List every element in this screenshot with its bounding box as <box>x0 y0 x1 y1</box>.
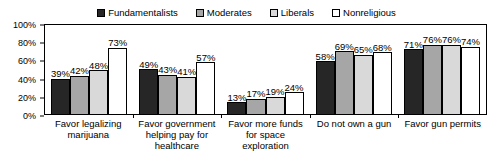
y-tick-label: 0% <box>23 112 36 121</box>
y-tick-label: 20% <box>18 93 36 102</box>
bar-slot: 68% <box>373 25 392 114</box>
bar-value-label: 39% <box>51 69 70 79</box>
bar-slot: 17% <box>246 25 265 114</box>
bar-slot: 48% <box>89 25 108 114</box>
legend-label: Moderates <box>207 8 252 18</box>
legend-item[interactable]: Liberals <box>270 8 314 18</box>
legend-swatch-icon <box>196 9 204 17</box>
plot-area: 39%42%48%73%49%43%41%57%13%17%19%24%58%6… <box>44 24 487 115</box>
legend-label: Liberals <box>281 8 314 18</box>
bar[interactable]: 41% <box>177 77 196 114</box>
bar-value-label: 42% <box>70 66 89 76</box>
bar-value-label: 65% <box>354 45 373 55</box>
bar-group: 13%17%19%24% <box>221 25 309 114</box>
x-axis-label: Favor more funds for space exploration <box>221 118 310 162</box>
bar[interactable]: 68% <box>373 52 392 114</box>
bar-group: 58%69%65%68% <box>310 25 398 114</box>
bar[interactable]: 74% <box>461 47 480 114</box>
bar-slot: 41% <box>177 25 196 114</box>
bar-value-label: 69% <box>335 42 354 52</box>
bar-value-label: 58% <box>316 52 335 62</box>
bar[interactable]: 19% <box>266 97 285 114</box>
bar[interactable]: 57% <box>196 62 215 114</box>
bar[interactable]: 43% <box>158 75 177 114</box>
legend-swatch-icon <box>270 9 278 17</box>
bar[interactable]: 65% <box>354 55 373 114</box>
bar[interactable]: 24% <box>285 92 304 114</box>
bar-slot: 13% <box>227 25 246 114</box>
bar-value-label: 74% <box>461 37 480 47</box>
legend-swatch-icon <box>332 9 340 17</box>
x-axis-label: Do not own a gun <box>310 118 399 162</box>
bar-slot: 65% <box>354 25 373 114</box>
y-tick-label: 100% <box>13 21 36 30</box>
x-axis-label: Favor government helping pay for healthc… <box>133 118 222 162</box>
chart-legend: FundamentalistsModeratesLiberalsNonrelig… <box>0 5 493 21</box>
bar-group: 39%42%48%73% <box>45 25 133 114</box>
bar-value-label: 49% <box>139 60 158 70</box>
x-axis-labels: Favor legalizing marijuanaFavor governme… <box>44 118 487 162</box>
bar[interactable]: 71% <box>404 49 423 114</box>
bar[interactable]: 76% <box>442 45 461 114</box>
bar-value-label: 24% <box>285 83 304 93</box>
bar-value-label: 41% <box>177 67 196 77</box>
bar-value-label: 57% <box>196 53 215 63</box>
bar-slot: 39% <box>51 25 70 114</box>
bar[interactable]: 17% <box>246 99 265 114</box>
bar-slot: 24% <box>285 25 304 114</box>
legend-item[interactable]: Nonreligious <box>332 8 396 18</box>
bar-value-label: 68% <box>373 43 392 53</box>
bar-slot: 19% <box>266 25 285 114</box>
bar[interactable]: 73% <box>108 48 127 114</box>
bar-slot: 42% <box>70 25 89 114</box>
legend-item[interactable]: Moderates <box>196 8 252 18</box>
bar[interactable]: 76% <box>423 45 442 114</box>
bar[interactable]: 58% <box>316 61 335 114</box>
bar-slot: 69% <box>335 25 354 114</box>
bar-value-label: 76% <box>442 35 461 45</box>
legend-label: Nonreligious <box>343 8 396 18</box>
legend-swatch-icon <box>97 9 105 17</box>
y-tick-mark <box>40 116 44 117</box>
bar[interactable]: 49% <box>139 69 158 114</box>
y-axis: 100%80%60%40%20%0% <box>0 24 44 116</box>
bar-value-label: 17% <box>246 89 265 99</box>
bar-value-label: 19% <box>266 87 285 97</box>
y-tick-label: 40% <box>18 75 36 84</box>
y-tick-label: 80% <box>18 39 36 48</box>
bar-value-label: 43% <box>158 65 177 75</box>
bar-slot: 71% <box>404 25 423 114</box>
bar[interactable]: 39% <box>51 79 70 114</box>
bar-slot: 73% <box>108 25 127 114</box>
bar-slot: 57% <box>196 25 215 114</box>
y-tick-label: 60% <box>18 57 36 66</box>
x-axis-label: Favor legalizing marijuana <box>44 118 133 162</box>
legend-label: Fundamentalists <box>108 8 178 18</box>
bar-slot: 74% <box>461 25 480 114</box>
bar[interactable]: 48% <box>89 70 108 114</box>
bar-value-label: 71% <box>404 40 423 50</box>
bar[interactable]: 42% <box>70 76 89 114</box>
bar[interactable]: 13% <box>227 102 246 114</box>
bar-group: 71%76%76%74% <box>398 25 486 114</box>
bar-value-label: 73% <box>108 38 127 48</box>
bar-value-label: 48% <box>89 61 108 71</box>
x-axis-label: Favor gun permits <box>398 118 487 162</box>
bar-groups: 39%42%48%73%49%43%41%57%13%17%19%24%58%6… <box>45 25 486 114</box>
bar-slot: 43% <box>158 25 177 114</box>
bar-slot: 76% <box>423 25 442 114</box>
bar-slot: 49% <box>139 25 158 114</box>
bar-value-label: 76% <box>423 35 442 45</box>
bar-value-label: 13% <box>227 93 246 103</box>
legend-item[interactable]: Fundamentalists <box>97 8 178 18</box>
bar-group: 49%43%41%57% <box>133 25 221 114</box>
bar[interactable]: 69% <box>335 51 354 114</box>
bar-slot: 58% <box>316 25 335 114</box>
bar-slot: 76% <box>442 25 461 114</box>
grouped-bar-chart: FundamentalistsModeratesLiberalsNonrelig… <box>0 0 493 162</box>
